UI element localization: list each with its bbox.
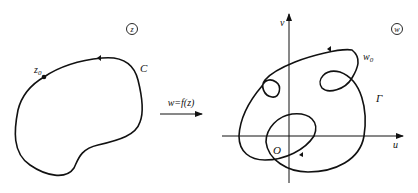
w-plane-badge: w	[392, 24, 403, 35]
point-z0-label: z0	[33, 64, 42, 77]
curve-c	[15, 58, 142, 176]
w-plane-label: w	[394, 25, 400, 34]
point-w0-label: w0	[363, 51, 374, 64]
v-axis-label: v	[280, 17, 285, 28]
point-z0-marker	[42, 75, 47, 80]
w-plane: w u v O w0 Γ	[222, 14, 403, 183]
conformal-mapping-diagram: z z0 C w=f(z) w u v O w0 Γ	[0, 0, 418, 193]
origin-label: O	[273, 144, 281, 156]
curve-c-label: C	[140, 62, 148, 74]
z-plane-badge: z	[127, 24, 138, 35]
u-axis-label: u	[393, 139, 398, 150]
direction-arrow-gamma-bottom-icon	[299, 152, 303, 157]
curve-gamma-label: Γ	[375, 92, 383, 104]
mapping-arrow: w=f(z)	[160, 97, 202, 114]
z-plane-label: z	[129, 25, 134, 34]
mapping-function-label: w=f(z)	[168, 97, 195, 109]
direction-arrow-icon	[97, 55, 101, 61]
z-plane: z z0 C	[15, 24, 148, 176]
direction-arrow-gamma-top-icon	[327, 46, 331, 52]
